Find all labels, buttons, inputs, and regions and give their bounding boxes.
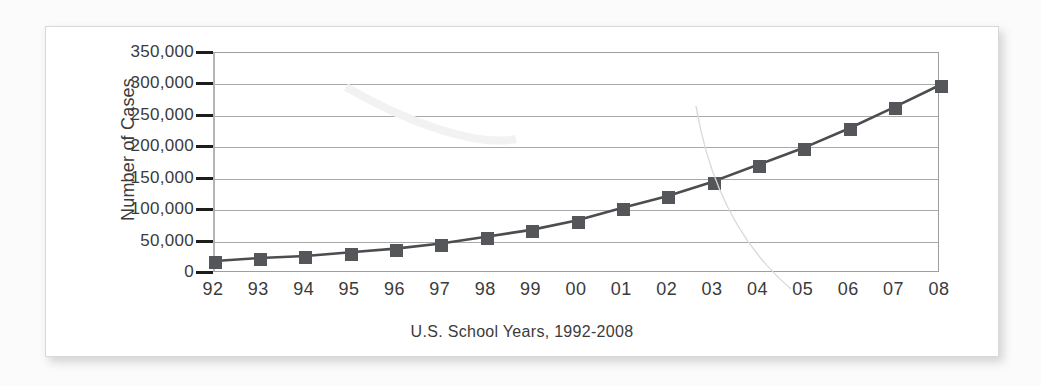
data-point-marker [798, 143, 811, 156]
y-axis-tick-label: 100,000 [130, 200, 194, 217]
x-axis-tick-label: 98 [465, 280, 505, 298]
chart-figure: Number of Cases 050,000100,000150,000200… [46, 27, 998, 356]
y-axis-tick-label: 250,000 [130, 106, 194, 123]
series-line [215, 53, 938, 271]
y-axis-tick-mark [196, 114, 213, 117]
data-point-marker [254, 253, 267, 266]
screenshot-root: Number of Cases 050,000100,000150,000200… [0, 0, 1041, 386]
data-point-marker [209, 256, 222, 269]
y-axis-tick-label: 350,000 [130, 43, 194, 60]
data-point-marker [889, 102, 902, 115]
y-axis-tick-label: 150,000 [130, 169, 194, 186]
y-axis-tick-mark [196, 271, 213, 274]
y-axis-tick-label: 200,000 [130, 137, 194, 154]
x-axis-tick-label: 02 [647, 280, 687, 298]
x-axis-tick-label: 07 [874, 280, 914, 298]
plot-area [213, 52, 939, 272]
x-axis-tick-label: 96 [375, 280, 415, 298]
data-point-marker [526, 225, 539, 238]
data-point-marker [345, 248, 358, 261]
x-axis-title: U.S. School Years, 1992-2008 [46, 323, 998, 341]
data-point-marker [935, 80, 948, 93]
x-axis-tick-label: 06 [828, 280, 868, 298]
y-axis-tick-mark [196, 177, 213, 180]
y-axis-tick-mark [196, 51, 213, 54]
x-axis-tick-label: 94 [284, 280, 324, 298]
y-axis-tick-mark [196, 82, 213, 85]
data-point-marker [390, 244, 403, 257]
x-axis-tick-label: 01 [601, 280, 641, 298]
x-axis-tick-label: 04 [738, 280, 778, 298]
data-point-marker [753, 160, 766, 173]
data-point-marker [844, 123, 857, 136]
x-axis-tick-label: 05 [783, 280, 823, 298]
data-point-marker [572, 216, 585, 229]
x-axis-tick-label: 92 [193, 280, 233, 298]
data-point-marker [299, 251, 312, 264]
y-axis-tick-mark [196, 240, 213, 243]
x-axis-tick-label: 95 [329, 280, 369, 298]
data-point-marker [435, 239, 448, 252]
chart-card: Number of Cases 050,000100,000150,000200… [45, 26, 999, 357]
y-axis-tick-mark [196, 145, 213, 148]
x-axis-tick-label: 08 [919, 280, 959, 298]
data-point-marker [617, 203, 630, 216]
data-point-marker [481, 232, 494, 245]
y-axis-tick-label: 0 [184, 263, 194, 280]
data-point-marker [662, 191, 675, 204]
y-axis-tick-label: 50,000 [140, 232, 194, 249]
data-point-marker [708, 177, 721, 190]
y-axis-tick-label: 300,000 [130, 74, 194, 91]
x-axis-tick-label: 00 [556, 280, 596, 298]
x-axis-tick-label: 99 [511, 280, 551, 298]
x-axis-tick-label: 03 [692, 280, 732, 298]
y-axis-labels: 050,000100,000150,000200,000250,000300,0… [46, 27, 194, 306]
x-axis-tick-label: 97 [420, 280, 460, 298]
x-axis-tick-label: 93 [238, 280, 278, 298]
y-axis-tick-mark [196, 208, 213, 211]
